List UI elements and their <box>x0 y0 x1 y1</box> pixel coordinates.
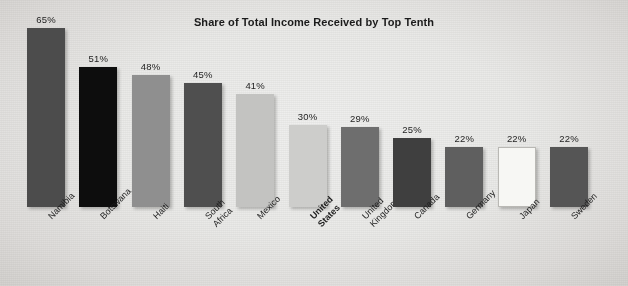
bar-value-label: 22% <box>455 133 475 144</box>
bar-value-label: 48% <box>141 61 161 72</box>
bar-value-label: 29% <box>350 113 370 124</box>
bar-group: 48%Haiti <box>132 75 170 207</box>
bar-value-label: 41% <box>245 80 265 91</box>
bar-group: 41%Mexico <box>236 94 274 207</box>
bar-group: 22%Sweden <box>550 147 588 208</box>
bar <box>132 75 170 207</box>
bar <box>236 94 274 207</box>
bar-group: 22%Japan <box>498 147 536 208</box>
bar-value-label: 51% <box>88 53 108 64</box>
bar-group: 30%United States <box>289 125 327 208</box>
bar <box>27 28 65 207</box>
bar-value-label: 22% <box>507 133 527 144</box>
bar-value-label: 65% <box>36 14 56 25</box>
bar-group: 29%United Kingdom <box>341 127 379 207</box>
bar-value-label: 22% <box>559 133 579 144</box>
bar <box>184 83 222 207</box>
bar-group: 25%Canada <box>393 138 431 207</box>
bar-group: 65%Namibia <box>27 28 65 207</box>
bar <box>445 147 483 208</box>
bar <box>393 138 431 207</box>
bar-value-label: 45% <box>193 69 213 80</box>
bar <box>79 67 117 207</box>
bar <box>550 147 588 208</box>
chart-figure: Share of Total Income Received by Top Te… <box>0 0 628 286</box>
bar <box>341 127 379 207</box>
bar <box>498 147 536 208</box>
bar <box>289 125 327 208</box>
bar-value-label: 25% <box>402 124 422 135</box>
bar-group: 45%South Africa <box>184 83 222 207</box>
bar-group: 51%Botswana <box>79 67 117 207</box>
bar-chart-plot-area: 65%Namibia51%Botswana48%Haiti45%South Af… <box>0 0 628 286</box>
bar-group: 22%Germany <box>445 147 483 208</box>
bar-value-label: 30% <box>298 111 318 122</box>
